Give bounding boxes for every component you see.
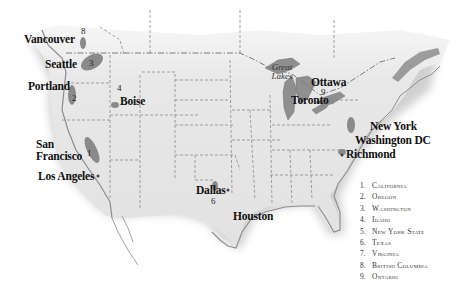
city-label-houston: Houston: [233, 210, 273, 222]
great-lakes-label: Great Lakes: [266, 63, 298, 80]
region-number-9: 9: [321, 87, 326, 97]
region-number-8: 8: [81, 26, 86, 36]
city-label-new-york: New York: [370, 120, 417, 132]
city-label-washington-dc: Washington DC: [355, 134, 431, 146]
region-number-2: 2: [72, 93, 77, 103]
city-label-richmond: Richmond: [346, 148, 396, 160]
city-label-seattle: Seattle: [45, 58, 77, 70]
legend-item: 4.Idaho: [360, 214, 428, 225]
city-label-portland: Portland: [28, 80, 70, 92]
city-label-vancouver: Vancouver: [24, 33, 75, 45]
legend-item: 2.Oregon: [360, 191, 428, 202]
region-number-6: 6: [211, 196, 216, 206]
city-label-boise: Boise: [120, 95, 145, 107]
legend-item: 8.British Columbia: [360, 260, 428, 271]
region-legend: 1.California 2.Oregon 3.Washington 4.Ida…: [360, 180, 428, 283]
city-label-san-francisco: San Francisco: [36, 138, 80, 162]
legend-item: 7.Virginia: [360, 248, 428, 259]
legend-item: 3.Washington: [360, 203, 428, 214]
region-number-3: 3: [89, 58, 94, 68]
baja-peninsula: [112, 216, 138, 265]
city-label-dallas: Dallas: [196, 184, 225, 196]
city-label-los-angeles: Los Angeles: [38, 170, 94, 182]
region-number-1: 1: [87, 148, 92, 158]
city-label-ottawa: Ottawa: [311, 76, 346, 88]
legend-item: 9.Ontario: [360, 271, 428, 282]
legend-item: 6.Texas: [360, 237, 428, 248]
legend-item: 5.New York State: [360, 226, 428, 237]
legend-item: 1.California: [360, 180, 428, 191]
region-number-4: 4: [117, 83, 122, 93]
